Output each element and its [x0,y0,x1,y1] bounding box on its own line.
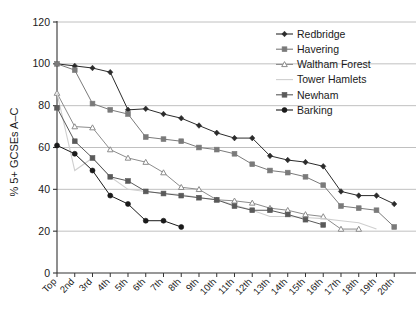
y-tick-60: 60 [38,141,50,153]
x-tick-15th: 15th [286,276,307,297]
legend-label: Havering [297,43,339,55]
legend-label: Barking [297,104,333,116]
x-tick-17th: 17th [322,276,343,297]
chart-legend: RedbridgeHaveringWaltham ForestTower Ham… [276,28,371,116]
x-tick-6th: 6th [130,276,147,293]
y-tick-100: 100 [32,57,50,69]
y-tick-20: 20 [38,225,50,237]
x-tick-19th: 19th [357,276,378,297]
line-chart: 020406080100120 Top2nd3rd4th5th6th7th8th… [0,0,416,310]
x-tick-4th: 4th [95,276,112,293]
x-tick-16th: 16th [304,276,325,297]
x-tick-10th: 10th [198,276,219,297]
x-tick-5th: 5th [112,276,129,293]
x-tick-8th: 8th [166,276,183,293]
chart-container: 020406080100120 Top2nd3rd4th5th6th7th8th… [0,0,416,310]
x-tick-11th: 11th [216,276,236,297]
legend-item-redbridge[interactable]: Redbridge [276,28,346,40]
y-tick-40: 40 [38,183,50,195]
y-tick-80: 80 [38,99,50,111]
x-tick-3rd: 3rd [77,276,94,294]
x-tick-7th: 7th [148,276,165,293]
y-axis-title: % 5+ GCSEs A–C [8,107,20,196]
x-tick-12th: 12th [233,276,254,297]
x-tick-20th: 20th [375,276,396,297]
y-tick-labels: 020406080100120 [32,16,57,279]
legend-item-tower-hamlets[interactable]: Tower Hamlets [276,73,366,85]
legend-label: Waltham Forest [297,58,371,70]
series-barking [55,143,184,230]
x-tick-13th: 13th [251,276,272,297]
x-tick-2nd: 2nd [57,276,76,295]
legend-item-newham[interactable]: Newham [276,89,339,101]
legend-label: Redbridge [297,28,346,40]
legend-item-havering[interactable]: Havering [276,43,339,55]
legend-item-waltham-forest[interactable]: Waltham Forest [276,58,371,70]
x-tick-14th: 14th [269,276,290,297]
gridlines [57,22,416,231]
legend-label: Newham [297,89,339,101]
y-tick-120: 120 [32,16,50,28]
x-tick-18th: 18th [340,276,361,297]
series-newham [55,105,326,227]
data-series-group [54,61,397,231]
x-tick-top: Top [40,276,58,295]
series-havering [55,61,397,229]
x-tick-labels: Top2nd3rd4th5th6th7th8th9th10th11th12th1… [40,273,396,297]
legend-label: Tower Hamlets [297,73,366,85]
